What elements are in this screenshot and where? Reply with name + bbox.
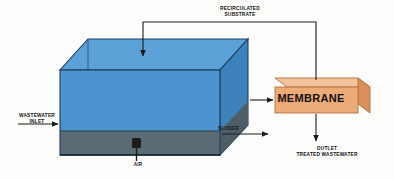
air-diffuser-body — [132, 138, 141, 148]
label-recirculated-substrate: RECIRCULATED SUBSTRATE — [188, 6, 292, 17]
label-air: AIR — [118, 162, 158, 167]
bioreactor-tank — [60, 39, 248, 155]
process-flow-diagram: RECIRCULATED SUBSTRATE WASTEWATER INLET … — [0, 0, 394, 179]
label-wastewater-inlet: WASTEWATER INLET — [2, 113, 72, 124]
tank-front-face-liquid — [60, 70, 220, 131]
label-sludge: SLUDGE — [218, 126, 258, 132]
membrane-side-face — [358, 78, 370, 113]
label-membrane: MEMBRANE — [268, 92, 354, 104]
membrane-top-face — [275, 78, 370, 87]
label-outlet-treated-wastewater: OUTLET TREATED WASTEWATER — [272, 146, 382, 157]
